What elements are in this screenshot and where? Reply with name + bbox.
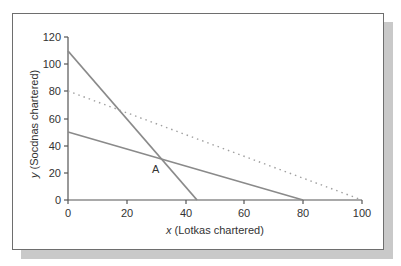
svg-text:0: 0 [55, 194, 61, 206]
series-steep-line [68, 51, 197, 200]
chart-plot: 0 20 40 60 80 100 120 0 20 40 60 80 100 … [0, 0, 401, 266]
svg-text:80: 80 [297, 207, 309, 219]
svg-text:120: 120 [43, 31, 61, 43]
svg-text:60: 60 [238, 207, 250, 219]
series-shallow-line [68, 132, 303, 200]
svg-text:100: 100 [353, 207, 371, 219]
svg-text:100: 100 [43, 58, 61, 70]
svg-text:0: 0 [65, 207, 71, 219]
y-axis [64, 37, 68, 200]
svg-text:20: 20 [49, 167, 61, 179]
point-a-label: A [152, 163, 160, 175]
x-axis-label: x (Lotkas chartered) [165, 224, 264, 236]
svg-text:80: 80 [49, 85, 61, 97]
x-tick-labels: 0 20 40 60 80 100 [65, 207, 371, 219]
svg-text:60: 60 [49, 113, 61, 125]
svg-text:20: 20 [121, 207, 133, 219]
x-axis [68, 200, 362, 204]
y-tick-labels: 0 20 40 60 80 100 120 [43, 31, 61, 206]
y-axis-label: y (Socdnas chartered) [28, 70, 40, 179]
svg-text:40: 40 [49, 140, 61, 152]
svg-text:40: 40 [180, 207, 192, 219]
